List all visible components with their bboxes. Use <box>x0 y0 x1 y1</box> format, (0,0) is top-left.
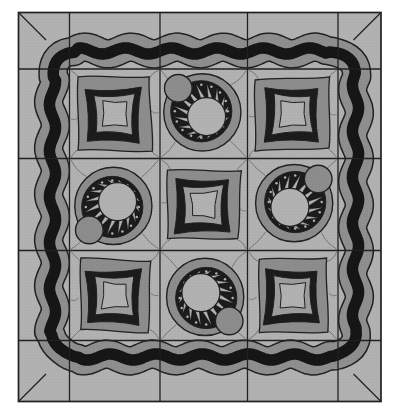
quilt-svg <box>0 0 398 419</box>
quilt-illustration <box>0 0 398 419</box>
page <box>0 0 398 419</box>
halftone-overlay <box>19 13 382 402</box>
